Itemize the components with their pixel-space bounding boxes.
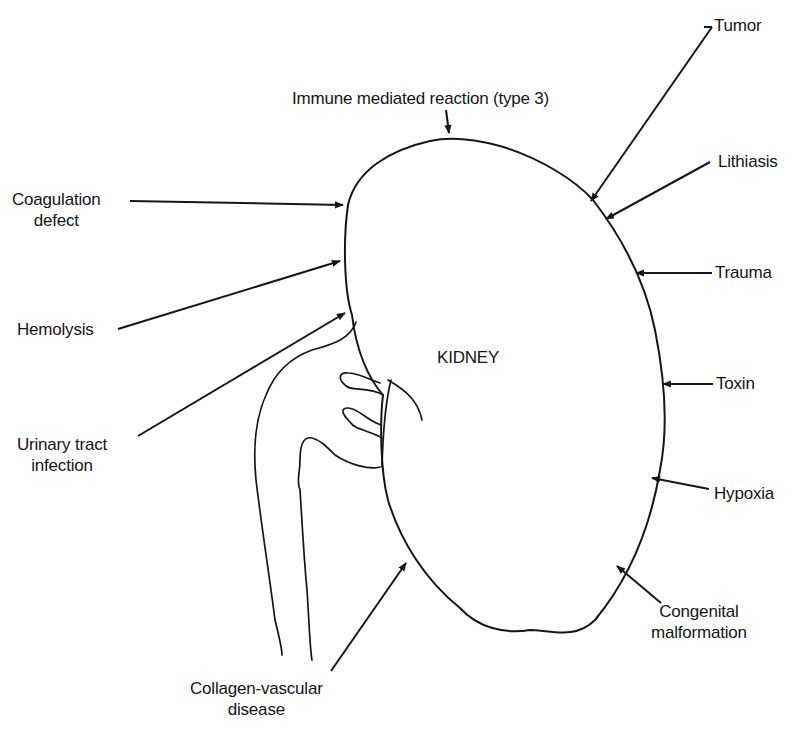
label-hypoxia: Hypoxia	[714, 483, 774, 504]
label-hemolysis-line-1: Hemolysis	[17, 319, 94, 340]
label-uti-line-1: Urinary tract	[17, 434, 107, 455]
label-lithiasis: Lithiasis	[718, 151, 778, 172]
label-urinary-tract-infection: Urinary tract infection	[17, 434, 107, 476]
label-coagulation-line-1: Coagulation	[12, 189, 101, 210]
label-hemolysis: Hemolysis	[17, 319, 94, 340]
label-trauma-line-1: Trauma	[715, 262, 772, 283]
calyx-1	[340, 373, 383, 395]
label-trauma: Trauma	[715, 262, 772, 283]
label-immune-line-1: Immune mediated reaction (type 3)	[292, 88, 549, 109]
hilum-curve	[388, 380, 422, 420]
label-congenital-line-2: malformation	[651, 622, 747, 643]
arrow-tumor	[591, 27, 712, 201]
kidney-causes-diagram: KIDNEY Tumor Immune mediated reaction (t…	[0, 0, 810, 734]
renal-vessel-outer	[255, 322, 356, 655]
label-tumor: Tumor	[714, 15, 762, 36]
arrow-hypoxia	[652, 478, 709, 489]
calyx-2	[343, 408, 382, 438]
label-uti-line-2: infection	[17, 455, 107, 476]
label-coagulation-line-2: defect	[12, 210, 101, 231]
label-collagen-vascular-disease: Collagen-vascular disease	[190, 678, 323, 720]
label-congenital-line-1: Congenital	[651, 601, 747, 622]
label-lithiasis-line-1: Lithiasis	[718, 151, 778, 172]
label-immune-reaction: Immune mediated reaction (type 3)	[292, 88, 549, 109]
arrow-hemolysis	[118, 261, 340, 329]
label-toxin-line-1: Toxin	[716, 373, 755, 394]
label-coagulation-defect: Coagulation defect	[12, 189, 101, 231]
arrow-lithiasis	[606, 162, 710, 219]
label-toxin: Toxin	[716, 373, 755, 394]
arrow-collagen	[331, 563, 406, 671]
arrow-coagulation	[130, 201, 343, 205]
label-tumor-line-1: Tumor	[714, 15, 762, 36]
label-collagen-line-1: Collagen-vascular	[190, 678, 323, 699]
calyx-divider	[382, 380, 391, 467]
arrow-congenital	[617, 566, 661, 603]
label-congenital-malformation: Congenital malformation	[651, 601, 747, 643]
label-collagen-line-2: disease	[190, 699, 323, 720]
label-hypoxia-line-1: Hypoxia	[714, 483, 774, 504]
arrow-immune	[446, 110, 449, 133]
arrow-uti	[138, 313, 345, 436]
ureter	[298, 438, 380, 660]
kidney-label: KIDNEY	[437, 347, 499, 368]
